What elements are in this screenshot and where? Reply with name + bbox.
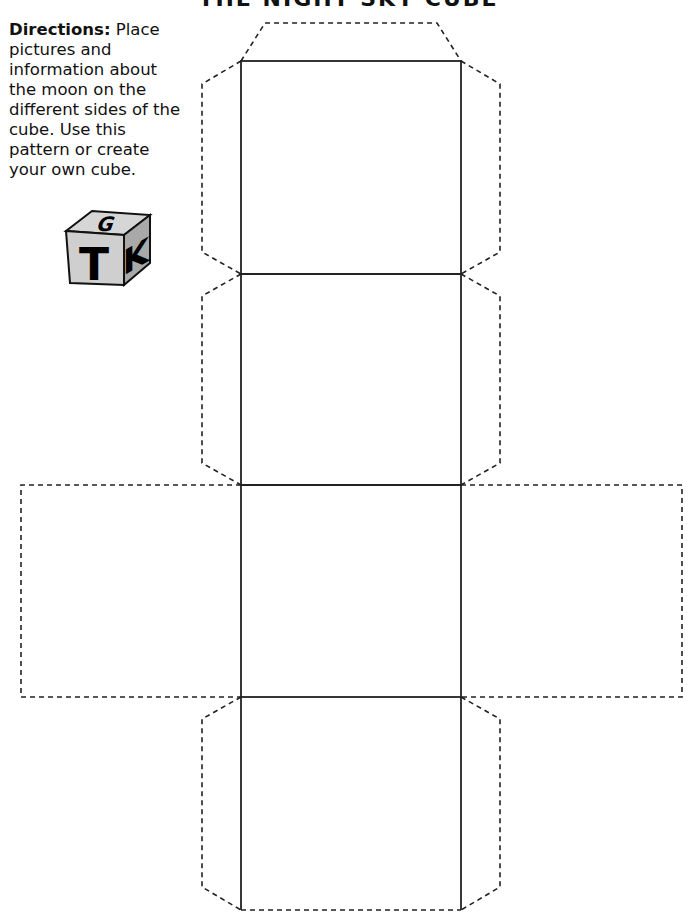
tab-left-1 <box>202 61 241 274</box>
face-2 <box>241 274 461 485</box>
tab-right-2 <box>461 274 500 485</box>
tab-left-4 <box>202 697 241 910</box>
face-right <box>461 485 682 697</box>
cube-net <box>0 0 697 916</box>
face-1 <box>241 61 461 274</box>
face-3 <box>241 485 461 697</box>
tab-right-1 <box>461 61 500 274</box>
top-flap <box>241 23 461 61</box>
tab-left-2 <box>202 274 241 485</box>
tab-right-4 <box>461 697 500 910</box>
face-left <box>21 485 241 697</box>
